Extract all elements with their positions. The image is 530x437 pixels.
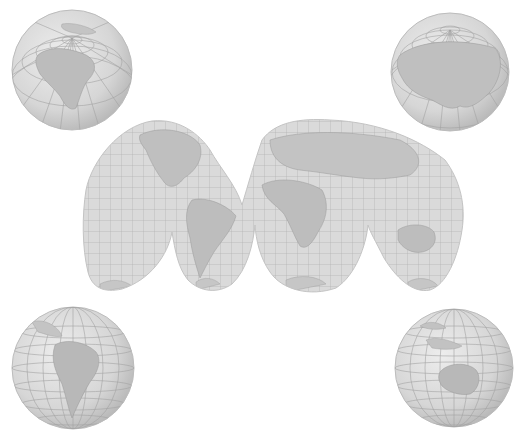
interrupted-world-map xyxy=(80,115,470,300)
globe-north-america xyxy=(6,10,138,132)
figure-canvas xyxy=(0,0,530,437)
globe-eurasia xyxy=(386,13,514,132)
globe-south-america xyxy=(12,307,134,429)
antarctica-landmass xyxy=(100,277,438,292)
globe-australia xyxy=(395,309,513,427)
